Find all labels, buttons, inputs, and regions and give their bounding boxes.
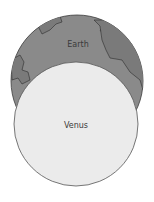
comparison-diagram bbox=[0, 0, 154, 202]
venus-label: Venus bbox=[56, 121, 96, 130]
earth-label: Earth bbox=[58, 40, 98, 49]
